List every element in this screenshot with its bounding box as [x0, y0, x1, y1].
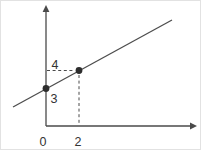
- line-graph-figure: 4 3 0 2: [0, 0, 201, 150]
- y-guide-label-4: 4: [52, 58, 59, 72]
- point-2-4: [76, 67, 83, 74]
- y-intercept-label-3: 3: [51, 92, 58, 106]
- point-y-intercept-0-3: [43, 85, 50, 92]
- line-graph-svg: 4 3 0 2: [1, 1, 201, 150]
- origin-label-0: 0: [40, 135, 47, 149]
- figure-background: [1, 1, 201, 150]
- x-tick-label-2: 2: [75, 135, 82, 149]
